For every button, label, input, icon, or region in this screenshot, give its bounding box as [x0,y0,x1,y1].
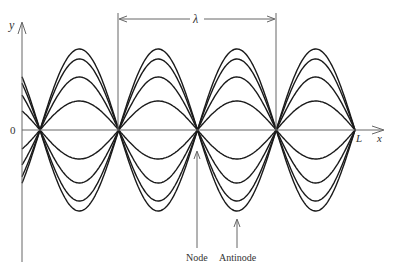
x-axis-label: x [376,132,382,144]
length-label: L [355,132,362,144]
y-axis-label: y [8,18,15,32]
antinode-label: Antinode [219,252,257,263]
node-label: Node [186,252,208,263]
standing-wave-diagram: y 0 L x λ Node Antinode [0,0,398,270]
diagram-canvas: y 0 L x λ Node Antinode [0,0,398,270]
wavelength-label: λ [192,12,198,26]
origin-label: 0 [10,124,16,136]
